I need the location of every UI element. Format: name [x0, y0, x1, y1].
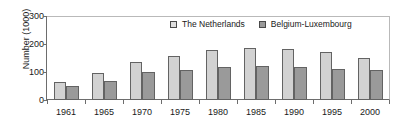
bar-chart-figure: Number (1000) 0100200300 196119651970197…	[0, 0, 398, 136]
y-axis-tick-label: 0	[0, 96, 44, 105]
bar-group	[130, 16, 155, 100]
x-axis-tick-label: 1985	[237, 107, 275, 117]
y-axis-tick-label: 100	[0, 68, 44, 77]
x-axis-tick-mark	[389, 100, 390, 104]
x-axis-tick-mark	[85, 100, 86, 104]
bar-belgium-luxembourg[interactable]	[370, 70, 383, 100]
y-axis-tick-label: 200	[0, 40, 44, 49]
x-axis-tick-mark	[47, 100, 48, 104]
x-axis-tick-mark	[351, 100, 352, 104]
bar-group	[92, 16, 117, 100]
bar-netherlands[interactable]	[92, 73, 105, 100]
chart-legend: The NetherlandsBelgium-Luxembourg	[170, 20, 352, 29]
legend-swatch-icon	[259, 21, 266, 28]
bar-belgium-luxembourg[interactable]	[180, 70, 193, 100]
x-axis-tick-label: 2000	[351, 107, 389, 117]
x-axis-tick-label: 1995	[313, 107, 351, 117]
y-axis-tick-label: 300	[0, 12, 44, 21]
legend-label: Belgium-Luxembourg	[271, 20, 352, 29]
bar-group	[358, 16, 383, 100]
x-axis-tick-label: 1970	[123, 107, 161, 117]
x-axis-tick-mark	[161, 100, 162, 104]
bar-netherlands[interactable]	[168, 56, 181, 100]
bar-belgium-luxembourg[interactable]	[218, 67, 231, 100]
bar-belgium-luxembourg[interactable]	[66, 86, 79, 100]
bar-netherlands[interactable]	[206, 50, 219, 100]
bar-belgium-luxembourg[interactable]	[294, 67, 307, 100]
x-axis-tick-label: 1980	[199, 107, 237, 117]
x-axis-tick-label: 1965	[85, 107, 123, 117]
bar-netherlands[interactable]	[282, 49, 295, 100]
x-axis-tick-label: 1975	[161, 107, 199, 117]
bar-netherlands[interactable]	[244, 48, 257, 100]
x-axis-tick-label: 1990	[275, 107, 313, 117]
legend-label: The Netherlands	[182, 20, 245, 29]
x-axis-tick-mark	[123, 100, 124, 104]
bar-group	[54, 16, 79, 100]
bar-netherlands[interactable]	[130, 62, 143, 100]
bar-netherlands[interactable]	[54, 82, 67, 100]
x-axis-tick-label: 1961	[47, 107, 85, 117]
x-axis-tick-mark	[313, 100, 314, 104]
bar-belgium-luxembourg[interactable]	[332, 69, 345, 100]
x-axis-tick-mark	[275, 100, 276, 104]
legend-entry[interactable]: The Netherlands	[170, 20, 245, 29]
bar-netherlands[interactable]	[320, 52, 333, 100]
legend-entry[interactable]: Belgium-Luxembourg	[259, 20, 352, 29]
bar-belgium-luxembourg[interactable]	[256, 66, 269, 100]
legend-swatch-icon	[170, 21, 177, 28]
bar-netherlands[interactable]	[358, 58, 371, 100]
x-axis-tick-mark	[199, 100, 200, 104]
bar-belgium-luxembourg[interactable]	[104, 81, 117, 100]
bar-belgium-luxembourg[interactable]	[142, 72, 155, 100]
x-axis-tick-mark	[237, 100, 238, 104]
